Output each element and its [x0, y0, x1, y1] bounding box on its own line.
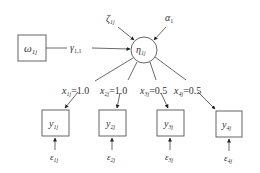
loading-edge-1: x1j=1.0: [61, 58, 133, 108]
y4-node: y4j: [216, 111, 242, 137]
svg-text:x4j=0.5: x4j=0.5: [173, 85, 201, 97]
omega-node: ω1j: [18, 35, 46, 61]
e4-node: ε4j: [224, 139, 233, 164]
y2-node: y2j: [99, 110, 126, 136]
eta-node: η1j: [131, 37, 157, 63]
svg-text:x2j=1.0: x2j=1.0: [99, 85, 127, 97]
gamma-edge: γ1,1: [46, 42, 130, 54]
svg-text:γ1,1: γ1,1: [70, 42, 81, 54]
svg-text:α1: α1: [165, 12, 173, 24]
y3-node: y3j: [157, 110, 184, 136]
alpha-node: α1: [154, 12, 173, 40]
zeta-node: ζ1j: [106, 13, 134, 40]
svg-text:ε2j: ε2j: [107, 152, 116, 163]
loading-edge-3: x3j=0.5: [139, 62, 168, 108]
svg-text:x3j=0.5: x3j=0.5: [139, 85, 167, 97]
path-diagram: ω1j γ1,1 η1j ζ1j α1 x1j=1.0 x2j=1.0 x3j=…: [0, 0, 260, 173]
svg-text:x1j=1.0: x1j=1.0: [61, 85, 89, 97]
svg-text:ζ1j: ζ1j: [106, 13, 115, 25]
svg-text:ε1j: ε1j: [50, 152, 59, 163]
e1-node: ε1j: [50, 138, 59, 163]
svg-text:ε3j: ε3j: [165, 152, 174, 163]
loading-edge-2: x2j=1.0: [99, 62, 137, 108]
loading-edge-4: x4j=0.5: [155, 57, 215, 109]
e2-node: ε2j: [107, 138, 116, 163]
svg-text:ε4j: ε4j: [224, 153, 233, 164]
y1-node: y1j: [42, 110, 69, 136]
e3-node: ε3j: [165, 138, 174, 163]
